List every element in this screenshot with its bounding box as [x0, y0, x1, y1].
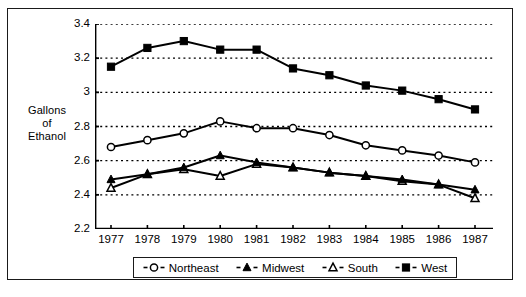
x-axis-tick-label-1978: 1978	[127, 233, 167, 245]
datapoint-northeast-1981	[253, 125, 260, 132]
y-axis-tick-label-2.2: 2.2	[56, 223, 90, 235]
datapoint-south-1977	[107, 184, 115, 192]
legend-item-midwest[interactable]: Midwest	[236, 261, 304, 274]
datapoint-west-1985	[399, 87, 406, 94]
x-axis-tick-label-1983: 1983	[309, 233, 349, 245]
legend-items: NortheastMidwestSouthWest	[134, 258, 456, 277]
datapoint-midwest-1980	[216, 151, 224, 159]
x-axis-tick-label-1984: 1984	[346, 233, 386, 245]
datapoint-west-1982	[289, 65, 296, 72]
datapoint-south-1987	[471, 194, 479, 202]
datapoint-west-1977	[107, 63, 114, 70]
datapoint-northeast-1979	[180, 130, 187, 137]
legend-label-midwest: Midwest	[262, 262, 304, 274]
x-axis-tick-labels: 1977197819791980198119821983198419851986…	[95, 233, 493, 249]
datapoint-west-1978	[144, 44, 151, 51]
x-axis-tick-label-1981: 1981	[237, 233, 277, 245]
y-axis-tick-label-3.2: 3.2	[56, 52, 90, 64]
x-axis-tick-label-1987: 1987	[455, 233, 495, 245]
legend-marker-west	[403, 264, 410, 271]
legend-label-northeast: Northeast	[169, 262, 219, 274]
legend-item-west[interactable]: West	[395, 261, 447, 274]
x-axis-tick-label-1985: 1985	[382, 233, 422, 245]
y-axis-tick-label-2.6: 2.6	[56, 155, 90, 167]
series-markers-west	[107, 37, 478, 113]
datapoint-west-1987	[471, 106, 478, 113]
datapoint-northeast-1980	[217, 118, 224, 125]
y-axis-tick-label-2.4: 2.4	[56, 189, 90, 201]
datapoint-northeast-1985	[399, 147, 406, 154]
datapoint-west-1980	[217, 46, 224, 53]
datapoint-west-1983	[326, 72, 333, 79]
chart-figure: Gallons of Ethanol 3.43.232.82.62.42.2 1…	[0, 0, 526, 297]
x-axis-tick-label-1982: 1982	[273, 233, 313, 245]
datapoint-northeast-1983	[326, 131, 333, 138]
y-axis-tick-label-3.4: 3.4	[56, 18, 90, 30]
x-axis-tick-label-1979: 1979	[164, 233, 204, 245]
plot-area	[95, 24, 493, 229]
chart-canvas	[95, 24, 493, 229]
y-axis-tick-label-2.8: 2.8	[56, 121, 90, 133]
datapoint-west-1981	[253, 46, 260, 53]
x-axis-tick-label-1977: 1977	[91, 233, 131, 245]
x-axis-tick-label-1986: 1986	[419, 233, 459, 245]
datapoint-northeast-1986	[435, 152, 442, 159]
legend-marker-south	[329, 263, 337, 271]
y-axis-tick-label-3: 3	[56, 86, 90, 98]
x-axis-tick-label-1980: 1980	[200, 233, 240, 245]
datapoint-northeast-1982	[289, 125, 296, 132]
legend-marker-northeast	[150, 264, 157, 271]
datapoint-west-1986	[435, 96, 442, 103]
legend-item-south[interactable]: South	[322, 261, 378, 274]
open-circle-icon	[143, 261, 165, 274]
y-axis-tick-labels: 3.43.232.82.62.42.2	[50, 24, 90, 229]
datapoint-northeast-1978	[144, 137, 151, 144]
chart-legend: NortheastMidwestSouthWest	[133, 257, 457, 278]
legend-label-south: South	[348, 262, 378, 274]
filled-square-icon	[395, 261, 417, 274]
datapoint-south-1980	[216, 172, 224, 180]
legend-marker-midwest	[243, 263, 251, 271]
legend-item-northeast[interactable]: Northeast	[143, 261, 219, 274]
open-triangle-icon	[322, 261, 344, 274]
filled-triangle-icon	[236, 261, 258, 274]
datapoint-west-1984	[362, 82, 369, 89]
legend-label-west: West	[421, 262, 447, 274]
datapoint-northeast-1984	[362, 142, 369, 149]
series-line-west	[111, 41, 475, 109]
datapoint-northeast-1987	[471, 159, 478, 166]
datapoint-west-1979	[180, 37, 187, 44]
datapoint-northeast-1977	[107, 143, 114, 150]
series-west	[111, 41, 475, 109]
series-markers-northeast	[107, 118, 478, 166]
